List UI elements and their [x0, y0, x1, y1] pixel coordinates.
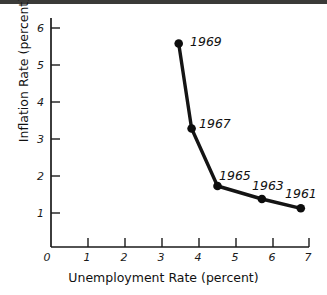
y-axis-ticks	[51, 28, 60, 213]
y-tick-label-3: 3	[32, 134, 44, 145]
point-annotation-1969: 1969	[190, 36, 222, 49]
y-tick-label-1: 1	[32, 208, 44, 219]
data-point-1969	[174, 39, 183, 48]
x-axis-title: Unemployment Rate (percent)	[0, 270, 327, 285]
x-tick-label-1: 1	[84, 252, 91, 263]
data-point-1967	[187, 124, 196, 133]
x-tick-label-2: 2	[121, 252, 128, 263]
x-axis-ticks	[88, 238, 309, 247]
y-tick-label-5: 5	[32, 60, 44, 71]
phillips-curve-chart: 6 5 4 3 2 1 0 1 2 3 4 5 6 7 1969 1967 19…	[0, 0, 327, 295]
point-annotation-1967: 1967	[199, 118, 231, 131]
point-annotation-1961: 1961	[285, 188, 317, 201]
data-point-1961	[297, 204, 306, 213]
data-point-1963	[258, 195, 267, 204]
x-tick-label-4: 4	[195, 252, 202, 263]
point-annotation-1965: 1965	[219, 170, 251, 183]
x-tick-label-3: 3	[158, 252, 165, 263]
y-tick-label-6: 6	[32, 23, 44, 34]
y-tick-label-2: 2	[32, 171, 44, 182]
x-tick-label-6: 6	[269, 252, 276, 263]
point-annotation-1963: 1963	[252, 180, 284, 193]
x-tick-label-7: 7	[305, 252, 312, 263]
x-tick-label-5: 5	[232, 252, 239, 263]
y-axis-title: Inflation Rate (percent)	[16, 0, 31, 155]
y-tick-label-4: 4	[32, 97, 44, 108]
x-tick-label-0: 0	[44, 252, 51, 263]
